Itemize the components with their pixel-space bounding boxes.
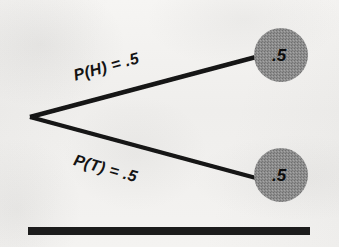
diagram-canvas: P(H) = .5 P(T) = .5 .5 .5 [0,0,339,247]
branch-line-heads [30,57,256,117]
bottom-rule [28,227,310,235]
outcome-node-tails-value: .5 [272,167,286,184]
probability-tree-graphic [0,0,339,247]
outcome-node-heads-value: .5 [272,47,286,64]
branch-line-tails [30,117,256,178]
